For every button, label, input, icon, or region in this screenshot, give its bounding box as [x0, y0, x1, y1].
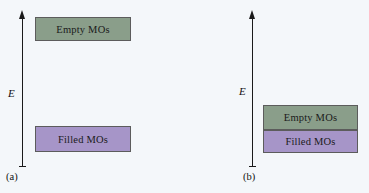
panel-b: E Empty MOs Filled MOs (b)	[185, 0, 369, 193]
empty-mo-label: Empty MOs	[56, 24, 109, 35]
energy-axis-label: E	[8, 88, 15, 99]
energy-axis-base-tick	[249, 166, 256, 167]
energy-axis-line	[22, 18, 23, 166]
filled-mo-label: Filled MOs	[58, 134, 108, 145]
filled-mo-label: Filled MOs	[285, 136, 335, 147]
mo-band-gap-figure: E Empty MOs Filled MOs (a) E Empty MOs F…	[0, 0, 369, 193]
panel-a: E Empty MOs Filled MOs (a)	[0, 0, 185, 193]
energy-axis-base-tick	[19, 166, 26, 167]
panel-b-caption: (b)	[243, 172, 255, 183]
empty-mo-band-a: Empty MOs	[35, 17, 131, 41]
filled-mo-band-b: Filled MOs	[263, 130, 358, 153]
energy-axis-label: E	[239, 86, 246, 97]
energy-axis-line	[252, 18, 253, 166]
empty-mo-band-b: Empty MOs	[263, 105, 358, 130]
panel-a-caption: (a)	[6, 172, 18, 183]
filled-mo-band-a: Filled MOs	[35, 126, 131, 152]
empty-mo-label: Empty MOs	[284, 112, 337, 123]
